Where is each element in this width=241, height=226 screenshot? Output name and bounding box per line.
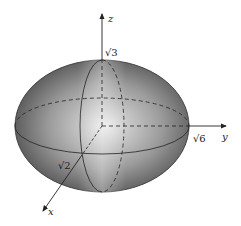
z-axis-label: z (107, 13, 114, 24)
y-intercept-label: √6 (193, 133, 206, 144)
x-axis-label: x (48, 206, 54, 217)
x-intercept-label: √2 (58, 160, 71, 171)
y-axis-label: y (221, 131, 228, 142)
z-intercept-label: √3 (105, 47, 118, 58)
ellipsoid-diagram: z √3 y √6 x √2 (0, 0, 241, 226)
